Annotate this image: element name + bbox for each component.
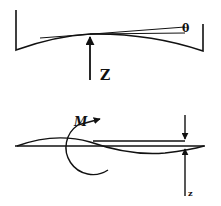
top-figure: θ Z [16,10,203,83]
moment-label: M [73,115,88,129]
tangent-line [40,27,185,38]
bottom-figure: M z [15,115,205,198]
diagram-canvas: θ Z M z [0,0,221,206]
z-force-label: Z [100,67,110,83]
theta-label: θ [182,22,189,35]
plate-outline [16,10,203,51]
z-label: z [188,188,193,198]
